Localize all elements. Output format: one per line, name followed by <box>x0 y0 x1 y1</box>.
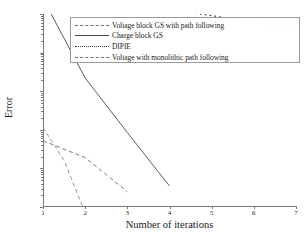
y-axis-title: Error <box>3 97 14 118</box>
y-minor-tick <box>41 138 43 139</box>
y-minor-tick <box>41 180 43 181</box>
y-minor-tick <box>41 56 43 57</box>
y-minor-tick <box>41 93 43 94</box>
y-minor-tick <box>41 174 43 175</box>
y-minor-tick <box>41 172 43 173</box>
y-minor-tick <box>41 97 43 98</box>
y-minor-tick <box>41 145 43 146</box>
y-minor-tick <box>41 170 43 171</box>
y-minor-tick <box>41 189 43 190</box>
y-minor-tick <box>41 95 43 96</box>
legend-swatch-dotted-icon <box>75 42 109 50</box>
legend-label: Voltage block GS with path following <box>112 21 224 30</box>
y-minor-tick <box>41 111 43 112</box>
y-minor-tick <box>41 150 43 151</box>
y-minor-tick <box>41 118 43 119</box>
x-tick-label: 1 <box>41 209 45 217</box>
y-minor-tick <box>41 100 43 101</box>
y-minor-tick <box>41 80 43 81</box>
x-tick-label: 3 <box>126 209 130 217</box>
y-minor-tick <box>41 29 43 30</box>
y-minor-tick <box>41 136 43 137</box>
x-axis-title: Number of iterations <box>43 219 296 230</box>
y-minor-tick <box>41 195 43 196</box>
y-minor-tick <box>41 54 43 55</box>
y-minor-tick <box>41 59 43 60</box>
x-tick-label: 7 <box>294 209 298 217</box>
x-tick-label: 4 <box>168 209 172 217</box>
legend-label: DIPIE <box>112 42 131 51</box>
y-minor-tick <box>41 184 43 185</box>
y-minor-tick <box>41 16 43 17</box>
legend-entry: Charge block GS <box>71 31 299 42</box>
x-tick-label: 2 <box>83 209 87 217</box>
y-minor-tick <box>41 20 43 21</box>
y-minor-tick <box>41 23 43 24</box>
y-minor-tick <box>41 107 43 108</box>
y-minor-tick <box>41 34 43 35</box>
legend: Voltage block GS with path following Cha… <box>70 17 300 63</box>
y-minor-tick <box>41 134 43 135</box>
legend-label: Voltage with monolithic path following <box>112 53 228 62</box>
y-minor-tick <box>41 64 43 65</box>
x-tick-label: 6 <box>252 209 256 217</box>
y-minor-tick <box>41 103 43 104</box>
y-minor-tick <box>41 61 43 62</box>
legend-entry: Voltage block GS with path following <box>71 20 299 31</box>
legend-entry: DIPIE <box>71 41 299 52</box>
y-minor-tick <box>41 73 43 74</box>
y-minor-tick <box>41 68 43 69</box>
y-minor-tick <box>41 157 43 158</box>
y-minor-tick <box>41 132 43 133</box>
series-dashed <box>43 141 127 192</box>
y-minor-tick <box>41 18 43 19</box>
legend-swatch-dashed2-icon <box>75 53 109 61</box>
y-minor-tick <box>41 26 43 27</box>
legend-swatch-solid-icon <box>75 32 109 40</box>
legend-swatch-dashed-icon <box>75 21 109 29</box>
figure: Error Number of iterations 10110010-110-… <box>0 0 308 240</box>
y-minor-tick <box>41 41 43 42</box>
legend-entry: Voltage with monolithic path following <box>71 52 299 63</box>
legend-label: Charge block GS <box>112 31 163 40</box>
y-minor-tick <box>41 177 43 178</box>
y-minor-tick <box>41 141 43 142</box>
series-dashed <box>43 127 85 213</box>
x-tick-label: 5 <box>210 209 214 217</box>
